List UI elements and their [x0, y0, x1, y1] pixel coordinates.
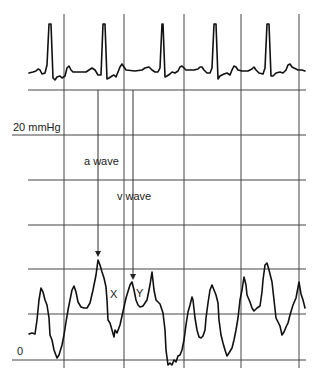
- arrowhead-icon: [95, 251, 101, 257]
- a-wave-label: a wave: [84, 155, 119, 167]
- x-descent-label: X: [110, 288, 118, 300]
- pressure-ecg-figure: 20 mmHg 0 a wave v wave X Y: [0, 0, 320, 387]
- scale-label-zero: 0: [17, 345, 23, 357]
- v-wave-arrow: [130, 90, 136, 280]
- v-wave-label: v wave: [117, 190, 151, 202]
- pressure-trace: [29, 260, 305, 365]
- y-descent-label: Y: [136, 287, 144, 299]
- ecg-trace: [29, 24, 305, 80]
- a-wave-arrow: [95, 90, 101, 257]
- arrowhead-icon: [130, 274, 136, 280]
- scale-label-20mmhg: 20 mmHg: [13, 121, 61, 133]
- grid: [12, 14, 306, 368]
